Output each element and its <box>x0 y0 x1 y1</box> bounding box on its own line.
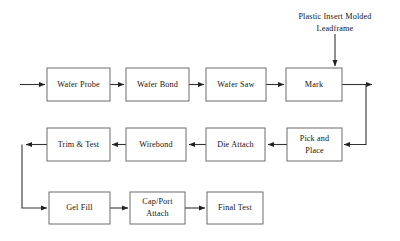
node-pick-and-place[interactable]: Pick and Place <box>287 128 342 161</box>
node-die-attach-label: Die Attach <box>217 140 254 149</box>
annotation-line-1: Plastic Insert Molded <box>298 12 371 21</box>
node-wafer-bond-label: Wafer Bond <box>137 80 178 89</box>
node-gel-fill-label: Gel Fill <box>66 203 93 212</box>
node-wafer-saw-label: Wafer Saw <box>217 80 254 89</box>
node-mark[interactable]: Mark <box>286 68 342 101</box>
process-flow-diagram: Plastic Insert Molded Leadframe Wafer Pr… <box>0 0 400 241</box>
node-pick-and-place-label-line-2: Place <box>305 146 324 155</box>
node-trim-and-test-label: Trim & Test <box>58 140 100 149</box>
node-wirebond-label: Wirebond <box>139 140 173 149</box>
node-cap-port-attach[interactable]: Cap/Port Attach <box>130 192 185 224</box>
node-wafer-saw[interactable]: Wafer Saw <box>206 68 266 101</box>
node-cap-port-attach-label-line-1: Cap/Port <box>142 197 173 206</box>
node-cap-port-attach-label-line-2: Attach <box>146 209 169 218</box>
node-pick-and-place-box[interactable] <box>287 128 342 161</box>
node-wafer-probe[interactable]: Wafer Probe <box>47 68 110 101</box>
node-final-test[interactable]: Final Test <box>207 192 263 224</box>
node-final-test-label: Final Test <box>218 203 252 212</box>
node-pick-and-place-label-line-1: Pick and <box>300 134 330 143</box>
node-wirebond[interactable]: Wirebond <box>126 128 186 161</box>
edge-trim-and-test-to-gel-fill <box>22 145 47 209</box>
edge-mark-to-pick-and-place <box>344 85 366 145</box>
edges-layer <box>20 34 372 208</box>
node-wafer-probe-label: Wafer Probe <box>57 80 100 89</box>
node-gel-fill[interactable]: Gel Fill <box>49 192 110 224</box>
node-die-attach[interactable]: Die Attach <box>206 128 265 161</box>
node-wafer-bond[interactable]: Wafer Bond <box>126 68 189 101</box>
node-trim-and-test[interactable]: Trim & Test <box>47 128 110 161</box>
flowchart-canvas: Plastic Insert Molded Leadframe Wafer Pr… <box>0 0 400 241</box>
node-mark-label: Mark <box>305 80 324 89</box>
annotation-line-2: Leadframe <box>317 24 354 33</box>
annotation-plastic-insert-molded-leadframe: Plastic Insert Molded Leadframe <box>298 12 371 33</box>
